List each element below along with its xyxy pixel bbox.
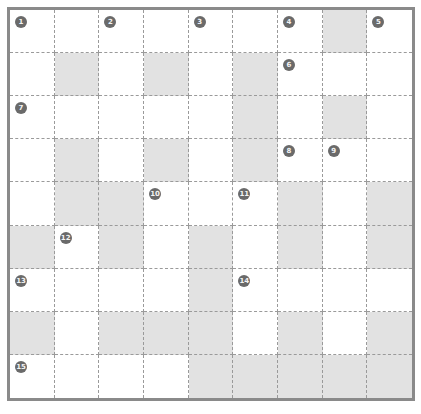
answer-cell[interactable] [189, 53, 234, 96]
crossword-grid: 123456789101112131415 [7, 7, 415, 401]
answer-cell[interactable]: 3 [189, 10, 234, 53]
blocked-cell [367, 226, 412, 269]
answer-cell[interactable] [144, 10, 189, 53]
answer-cell[interactable]: 14 [233, 269, 278, 312]
answer-cell[interactable]: 12 [55, 226, 100, 269]
clue-number-badge: 8 [283, 145, 295, 157]
answer-cell[interactable] [189, 182, 234, 225]
clue-number-badge: 12 [60, 232, 72, 244]
clue-number-badge: 7 [15, 102, 27, 114]
blocked-cell [323, 10, 368, 53]
blocked-cell [278, 312, 323, 355]
answer-cell[interactable] [55, 355, 100, 398]
blocked-cell [144, 53, 189, 96]
answer-cell[interactable] [55, 10, 100, 53]
answer-cell[interactable] [99, 355, 144, 398]
blocked-cell [10, 312, 55, 355]
answer-cell[interactable] [278, 269, 323, 312]
blocked-cell [367, 355, 412, 398]
clue-number-badge: 14 [238, 275, 250, 287]
clue-number-badge: 15 [15, 361, 27, 373]
blocked-cell [233, 96, 278, 139]
answer-cell[interactable]: 1 [10, 10, 55, 53]
answer-cell[interactable]: 9 [323, 139, 368, 182]
answer-cell[interactable]: 4 [278, 10, 323, 53]
answer-cell[interactable] [323, 53, 368, 96]
answer-cell[interactable] [189, 96, 234, 139]
answer-cell[interactable] [10, 182, 55, 225]
answer-cell[interactable] [233, 10, 278, 53]
blocked-cell [144, 312, 189, 355]
clue-number-badge: 5 [372, 16, 384, 28]
answer-cell[interactable] [278, 96, 323, 139]
answer-cell[interactable] [144, 269, 189, 312]
blocked-cell [99, 182, 144, 225]
clue-number-badge: 9 [328, 145, 340, 157]
answer-cell[interactable] [144, 226, 189, 269]
clue-number-badge: 11 [238, 188, 250, 200]
answer-cell[interactable] [189, 139, 234, 182]
answer-cell[interactable] [55, 96, 100, 139]
blocked-cell [278, 226, 323, 269]
answer-cell[interactable] [99, 139, 144, 182]
answer-cell[interactable] [367, 139, 412, 182]
clue-number-badge: 1 [15, 16, 27, 28]
blocked-cell [55, 182, 100, 225]
blocked-cell [99, 226, 144, 269]
answer-cell[interactable]: 6 [278, 53, 323, 96]
clue-number-badge: 3 [194, 16, 206, 28]
answer-cell[interactable] [233, 226, 278, 269]
blocked-cell [367, 182, 412, 225]
answer-cell[interactable]: 5 [367, 10, 412, 53]
answer-cell[interactable]: 8 [278, 139, 323, 182]
answer-cell[interactable] [55, 269, 100, 312]
answer-cell[interactable] [367, 269, 412, 312]
answer-cell[interactable] [323, 269, 368, 312]
answer-cell[interactable] [367, 53, 412, 96]
answer-cell[interactable] [99, 96, 144, 139]
blocked-cell [233, 355, 278, 398]
answer-cell[interactable] [233, 312, 278, 355]
blocked-cell [10, 226, 55, 269]
blocked-cell [278, 182, 323, 225]
blocked-cell [189, 226, 234, 269]
blocked-cell [144, 139, 189, 182]
clue-number-badge: 4 [283, 16, 295, 28]
clue-number-badge: 2 [104, 16, 116, 28]
answer-cell[interactable]: 10 [144, 182, 189, 225]
answer-cell[interactable] [10, 53, 55, 96]
answer-cell[interactable] [55, 312, 100, 355]
blocked-cell [55, 139, 100, 182]
answer-cell[interactable]: 2 [99, 10, 144, 53]
answer-cell[interactable]: 7 [10, 96, 55, 139]
blocked-cell [278, 355, 323, 398]
blocked-cell [233, 139, 278, 182]
blocked-cell [99, 312, 144, 355]
clue-number-badge: 10 [149, 188, 161, 200]
answer-cell[interactable] [144, 355, 189, 398]
answer-cell[interactable]: 15 [10, 355, 55, 398]
blocked-cell [189, 312, 234, 355]
clue-number-badge: 13 [15, 275, 27, 287]
answer-cell[interactable]: 11 [233, 182, 278, 225]
answer-cell[interactable]: 13 [10, 269, 55, 312]
answer-cell[interactable] [367, 96, 412, 139]
answer-cell[interactable] [323, 182, 368, 225]
answer-cell[interactable] [10, 139, 55, 182]
blocked-cell [323, 96, 368, 139]
blocked-cell [367, 312, 412, 355]
answer-cell[interactable] [99, 269, 144, 312]
blocked-cell [55, 53, 100, 96]
answer-cell[interactable] [144, 96, 189, 139]
blocked-cell [323, 355, 368, 398]
blocked-cell [189, 269, 234, 312]
blocked-cell [189, 355, 234, 398]
answer-cell[interactable] [323, 312, 368, 355]
clue-number-badge: 6 [283, 59, 295, 71]
answer-cell[interactable] [323, 226, 368, 269]
answer-cell[interactable] [99, 53, 144, 96]
blocked-cell [233, 53, 278, 96]
